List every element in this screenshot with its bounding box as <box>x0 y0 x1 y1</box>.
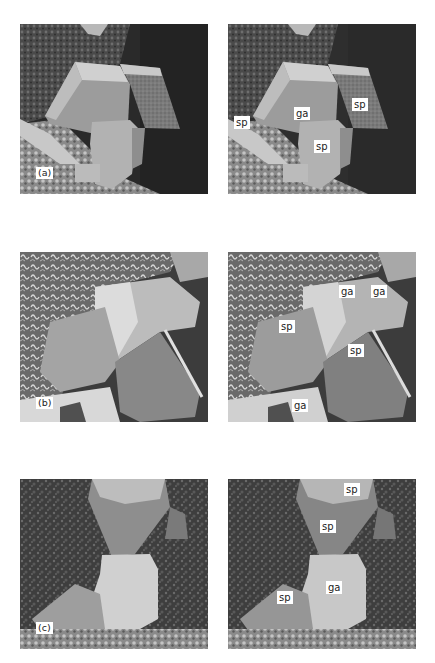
sem-image-c-right <box>228 479 416 649</box>
mineral-label-sp: sp <box>279 320 295 333</box>
mineral-label-sp: sp <box>277 591 293 604</box>
mineral-label-sp: sp <box>348 344 364 357</box>
mineral-label-sp: sp <box>320 520 336 533</box>
sem-image-a-right <box>228 24 416 194</box>
mineral-label-sp: sp <box>234 116 250 129</box>
micrograph-b-unlabeled: (b) <box>20 252 208 422</box>
mineral-label-sp: sp <box>344 483 360 496</box>
mineral-label-sp: sp <box>314 140 330 153</box>
micrograph-c-labeled: sp sp ga sp <box>228 479 416 649</box>
mineral-label-ga: ga <box>339 285 355 298</box>
micrograph-a-unlabeled: (a) <box>20 24 208 194</box>
panel-label-b: (b) <box>36 397 53 409</box>
mineral-label-ga: ga <box>292 399 308 412</box>
mineral-label-ga: ga <box>371 285 387 298</box>
micrograph-c-unlabeled: (c) <box>20 479 208 649</box>
panel-label-c: (c) <box>36 622 53 634</box>
mineral-label-sp: sp <box>352 98 368 111</box>
micrograph-a-labeled: sp ga sp sp <box>228 24 416 194</box>
mineral-label-ga: ga <box>294 107 310 120</box>
panel-label-a: (a) <box>36 167 53 179</box>
micrograph-b-labeled: ga ga sp sp ga <box>228 252 416 422</box>
sem-image-b-right <box>228 252 416 422</box>
mineral-label-ga: ga <box>326 581 342 594</box>
